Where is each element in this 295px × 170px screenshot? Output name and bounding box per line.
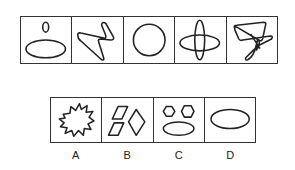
single-stroke-loop-icon	[72, 17, 122, 63]
option-a-cell[interactable]	[51, 98, 102, 142]
tangled-line-icon	[227, 17, 277, 63]
question-cell-1	[21, 17, 72, 63]
parallelograms-and-rhombus-icon	[102, 98, 152, 142]
starburst-icon	[51, 98, 101, 142]
option-label-a: A	[50, 149, 102, 161]
crossed-ellipses-icon	[175, 17, 225, 63]
option-label-c: C	[153, 149, 205, 161]
small-oval-above-large-ellipse-icon	[21, 17, 71, 63]
question-cell-4	[175, 17, 226, 63]
options-row	[50, 97, 256, 143]
question-cell-5	[227, 17, 277, 63]
option-b-cell[interactable]	[102, 98, 153, 142]
option-d-cell[interactable]	[205, 98, 255, 142]
option-c-cell[interactable]	[154, 98, 205, 142]
two-hexagons-and-ellipse-icon	[154, 98, 204, 142]
ellipse-icon	[205, 98, 255, 142]
option-labels: A B C D	[50, 149, 256, 161]
question-row	[20, 16, 278, 64]
circle-icon	[124, 17, 174, 63]
option-label-b: B	[102, 149, 154, 161]
question-cell-3	[124, 17, 175, 63]
question-cell-2	[72, 17, 123, 63]
option-label-d: D	[205, 149, 257, 161]
